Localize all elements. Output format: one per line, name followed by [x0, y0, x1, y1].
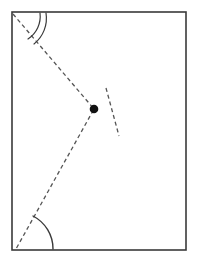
diagram-canvas: [0, 0, 200, 263]
diagram-background: [0, 0, 200, 263]
geometry-figure: [0, 0, 200, 263]
intersection-point-dot: [90, 105, 99, 114]
